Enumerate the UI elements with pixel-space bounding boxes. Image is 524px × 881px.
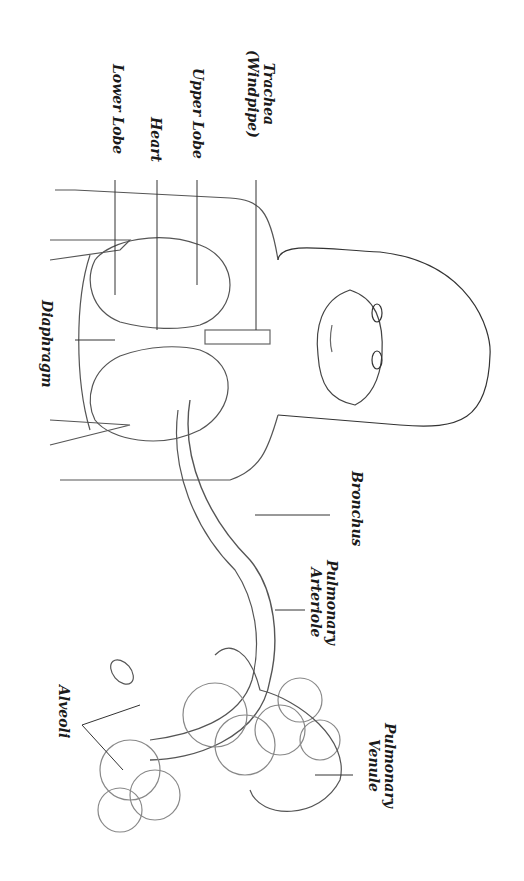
label-heart: Heart [148, 117, 164, 162]
label-bronchus: Bronchus [349, 471, 365, 547]
label-alveoli: Alveoli [56, 685, 72, 738]
bronchus-tube [150, 400, 275, 760]
arm-line [50, 240, 130, 260]
label-lower-lobe: Lower Lobe [110, 64, 126, 154]
leader-lines [75, 180, 353, 775]
label-upper-lobe: Upper Lobe [190, 68, 206, 159]
hair-outline [278, 248, 490, 426]
label-trachea-line1: Trachea [261, 50, 277, 138]
label-trachea: Trachea (Windpipe) [245, 50, 277, 138]
label-venule-line2: Venule [366, 723, 382, 808]
label-venule-line1: Pulmonary [382, 723, 398, 808]
label-pulmonary-arteriole: Pulmonary Arteriole [308, 560, 340, 645]
trachea-shape [205, 330, 270, 344]
bronchus-tube-inner [150, 410, 257, 740]
diaphragm-curve [79, 255, 90, 430]
label-arteriole-line2: Arteriole [308, 560, 324, 645]
label-trachea-line2: (Windpipe) [245, 50, 261, 138]
respiratory-diagram: Trachea (Windpipe) Upper Lobe Heart Lowe… [0, 0, 524, 881]
arm-line-2 [50, 420, 130, 445]
label-arteriole-line1: Pulmonary [324, 560, 340, 645]
neck-shoulders-right [60, 415, 278, 480]
capillary-loop [215, 648, 341, 811]
right-lung [90, 347, 228, 441]
eye-right [372, 351, 382, 369]
mouth [331, 325, 333, 352]
bronchus-opening [106, 655, 138, 688]
label-pulmonary-venule: Pulmonary Venule [366, 723, 398, 808]
neck-shoulders-left [55, 190, 278, 260]
label-diaphragm: Diaphragm [39, 300, 55, 388]
